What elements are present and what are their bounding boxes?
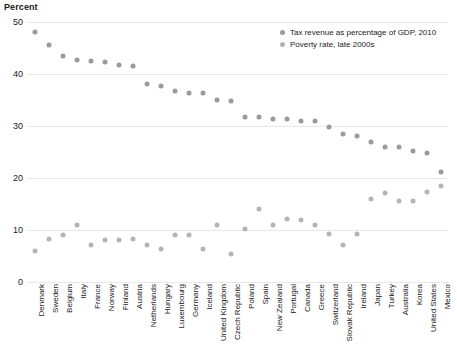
data-point xyxy=(215,222,220,227)
dot-marker-poverty-icon xyxy=(280,42,285,47)
data-point xyxy=(61,232,66,237)
x-axis-tick-label: Japan xyxy=(374,284,382,306)
data-point xyxy=(201,91,206,96)
x-axis-tick-label: United Kingdom xyxy=(220,284,228,341)
x-axis-tick-label: Korea xyxy=(416,284,424,305)
x-axis-tick-label: Switzerland xyxy=(332,284,340,325)
data-point xyxy=(75,222,80,227)
data-point xyxy=(355,232,360,237)
x-axis-tick-label: Belgium xyxy=(66,284,74,313)
data-point xyxy=(439,183,444,188)
chart-legend: Tax revenue as percentage of GDP, 2010Po… xyxy=(280,28,436,52)
x-axis-tick-label: Iceland xyxy=(206,284,214,310)
data-point xyxy=(285,117,290,122)
data-point xyxy=(145,81,150,86)
x-axis-tick-label: Canada xyxy=(304,284,312,312)
y-axis-tick-label: 20 xyxy=(13,173,23,183)
data-point xyxy=(131,63,136,68)
gridline xyxy=(28,178,448,179)
data-point xyxy=(341,242,346,247)
data-point xyxy=(159,83,164,88)
y-axis-tick-label: 40 xyxy=(13,69,23,79)
data-point xyxy=(243,226,248,231)
y-axis-tick-label: 0 xyxy=(18,277,23,287)
x-axis-tick-label: Sweden xyxy=(52,284,60,313)
x-axis-tick-label: Portugal xyxy=(290,284,298,314)
data-point xyxy=(159,247,164,252)
x-axis-tick-label: Germany xyxy=(192,284,200,317)
data-point xyxy=(89,242,94,247)
data-point xyxy=(243,114,248,119)
x-axis-tick-label: Greece xyxy=(318,284,326,310)
data-point xyxy=(131,237,136,242)
x-axis-tick-label: Mexico xyxy=(444,284,452,309)
data-point xyxy=(187,90,192,95)
data-point xyxy=(341,132,346,137)
x-axis-tick-label: Netherlands xyxy=(150,284,158,327)
x-axis-tick-label: Denmark xyxy=(38,284,46,316)
data-point xyxy=(327,125,332,130)
data-point xyxy=(117,237,122,242)
data-point xyxy=(271,222,276,227)
legend-item: Poverty rate, late 2000s xyxy=(280,40,436,49)
gridline xyxy=(28,74,448,75)
data-point xyxy=(411,199,416,204)
y-axis-tick-label: 10 xyxy=(13,225,23,235)
x-axis-tick-label: Austria xyxy=(136,284,144,309)
data-point xyxy=(383,144,388,149)
x-axis-tick-label: New Zealand xyxy=(276,284,284,331)
data-point xyxy=(285,217,290,222)
data-point xyxy=(201,247,206,252)
data-point xyxy=(145,242,150,247)
gridline xyxy=(28,282,448,283)
x-axis-tick-label: Ireland xyxy=(360,284,368,308)
x-axis-tick-label: Slovak Republic xyxy=(346,284,354,341)
x-axis-tick-label: United States xyxy=(430,284,438,332)
x-axis-tick-label: Norway xyxy=(108,284,116,311)
x-axis-tick-label: Turkey xyxy=(388,284,396,308)
data-point xyxy=(103,237,108,242)
data-point xyxy=(313,222,318,227)
data-point xyxy=(229,251,234,256)
data-point xyxy=(383,191,388,196)
plot-area: 01020304050 xyxy=(28,22,448,282)
data-point xyxy=(425,190,430,195)
data-point xyxy=(215,98,220,103)
data-point xyxy=(271,117,276,122)
data-point xyxy=(89,59,94,64)
data-point xyxy=(369,139,374,144)
data-point xyxy=(257,206,262,211)
data-point xyxy=(61,53,66,58)
data-point xyxy=(47,43,52,48)
data-point xyxy=(229,98,234,103)
dot-marker-tax-icon xyxy=(280,30,285,35)
data-point xyxy=(173,89,178,94)
data-point xyxy=(187,232,192,237)
data-point xyxy=(397,199,402,204)
data-point xyxy=(173,232,178,237)
x-axis-tick-label: Poland xyxy=(248,284,256,309)
data-point xyxy=(439,170,444,175)
y-axis-title: Percent xyxy=(4,2,38,12)
x-axis-tick-label: France xyxy=(94,284,102,309)
x-axis-tick-label: Spain xyxy=(262,284,270,304)
x-axis-tick-label: Italy xyxy=(80,284,88,299)
x-axis-labels: DenmarkSwedenBelgiumItalyFranceNorwayFin… xyxy=(28,284,448,356)
x-axis-tick-label: Finland xyxy=(122,284,130,310)
data-point xyxy=(355,134,360,139)
data-point xyxy=(299,118,304,123)
y-axis-tick-label: 50 xyxy=(13,17,23,27)
legend-label: Tax revenue as percentage of GDP, 2010 xyxy=(290,28,436,37)
data-point xyxy=(411,149,416,154)
legend-label: Poverty rate, late 2000s xyxy=(290,40,375,49)
data-point xyxy=(313,119,318,124)
legend-item: Tax revenue as percentage of GDP, 2010 xyxy=(280,28,436,37)
data-point xyxy=(327,232,332,237)
data-point xyxy=(103,59,108,64)
data-point xyxy=(75,58,80,63)
x-axis-tick-label: Czech Republic xyxy=(234,284,242,340)
data-point xyxy=(33,30,38,35)
x-axis-tick-label: Australia xyxy=(402,284,410,315)
data-point xyxy=(257,115,262,120)
data-point xyxy=(117,63,122,68)
